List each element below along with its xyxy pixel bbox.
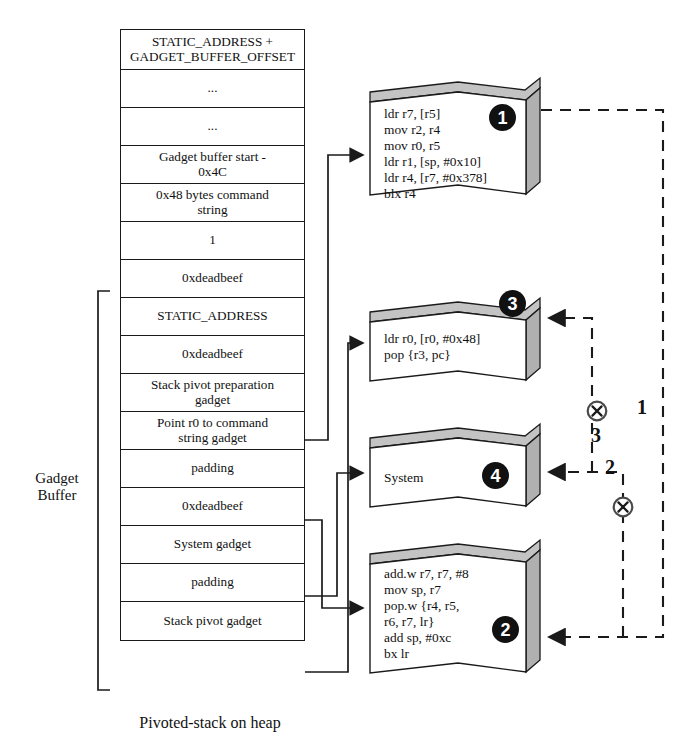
- flow-label-2: 2: [605, 456, 615, 479]
- stack-cell-static-address-offset: STATIC_ADDRESS + GADGET_BUFFER_OFFSET: [121, 30, 304, 70]
- stack-cell-deadbeef-3: 0xdeadbeef: [121, 488, 304, 526]
- stack-cell-stack-pivot-prep-gadget: Stack pivot preparation gadget: [121, 374, 304, 412]
- diagram-canvas: STATIC_ADDRESS + GADGET_BUFFER_OFFSET...…: [0, 0, 684, 753]
- stack-cell-padding-2: padding: [121, 564, 304, 602]
- gadget-box-3-badge: 3: [499, 290, 526, 317]
- gadget-box-3: ldr r0, [r0, #0x48] pop {r3, pc} 3: [370, 298, 540, 384]
- gadget-box-4-code: System: [384, 470, 423, 486]
- flow-label-3: 3: [591, 424, 601, 447]
- connector-stackpivot-to-gadget3: [305, 343, 363, 672]
- stack-cell-padding-1: padding: [121, 450, 304, 488]
- flow-wire-3: [549, 318, 592, 472]
- connector-pointr0-to-gadget2: [305, 520, 363, 608]
- flow-wire-1: [541, 110, 663, 637]
- gadget-box-2-code: add.w r7, r7, #8 mov sp, r7 pop.w {r4, r…: [384, 566, 469, 662]
- stack-cell-system-gadget: System gadget: [121, 526, 304, 564]
- gadget-box-1: ldr r7, [r5] mov r2, r4 mov r0, r5 ldr r…: [370, 78, 540, 200]
- stack-cell-gadget-buffer-start: Gadget buffer start - 0x4C: [121, 146, 304, 184]
- connector-system-to-gadget4: [305, 473, 363, 596]
- diagram-caption: Pivoted-stack on heap: [0, 714, 420, 732]
- gadget-buffer-label: Gadget Buffer: [20, 470, 94, 505]
- gadget-box-1-code: ldr r7, [r5] mov r2, r4 mov r0, r5 ldr r…: [384, 106, 487, 202]
- gadget-box-2-badge: 2: [492, 616, 519, 643]
- flow-label-1: 1: [637, 396, 647, 419]
- gadget-box-4: System 4: [370, 424, 540, 510]
- pivoted-stack-table: STATIC_ADDRESS + GADGET_BUFFER_OFFSET...…: [120, 29, 305, 641]
- stack-cell-stack-pivot-gadget: Stack pivot gadget: [121, 602, 304, 640]
- break-marker-icon-lower: [612, 496, 634, 518]
- gadget-box-1-badge: 1: [489, 104, 516, 131]
- connector-overlay: [0, 0, 684, 753]
- stack-cell-deadbeef-2: 0xdeadbeef: [121, 336, 304, 374]
- stack-cell-one: 1: [121, 222, 304, 260]
- stack-cell-static-address: STATIC_ADDRESS: [121, 298, 304, 336]
- stack-cell-ellipsis-1: ...: [121, 70, 304, 108]
- break-marker-icon-upper: [586, 400, 608, 422]
- stack-cell-command-string: 0x48 bytes command string: [121, 184, 304, 222]
- gadget-box-3-code: ldr r0, [r0, #0x48] pop {r3, pc}: [384, 331, 480, 363]
- stack-cell-point-r0-gadget: Point r0 to command string gadget: [121, 412, 304, 450]
- gadget-box-2: add.w r7, r7, #8 mov sp, r7 pop.w {r4, r…: [370, 540, 540, 678]
- stack-cell-ellipsis-2: ...: [121, 108, 304, 146]
- stack-cell-deadbeef-1: 0xdeadbeef: [121, 260, 304, 298]
- gadget-buffer-bracket: [98, 291, 110, 690]
- connector-pivot-prep-to-gadget1: [305, 155, 363, 440]
- gadget-box-4-badge: 4: [482, 462, 509, 489]
- gadget-box-4-shape: [370, 424, 540, 510]
